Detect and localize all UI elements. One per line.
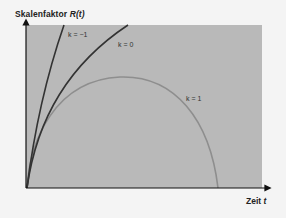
x-axis-label: Zeit t — [246, 196, 266, 206]
scale-factor-chart: k = −1 k = 0 k = 1 Skalenfaktor R(t) Zei… — [0, 0, 286, 218]
label-k-minus1: k = −1 — [68, 31, 88, 38]
y-axis-label: Skalenfaktor R(t) — [15, 9, 85, 19]
plot-area: k = −1 k = 0 k = 1 — [0, 0, 286, 218]
label-k-plus1: k = 1 — [186, 95, 201, 102]
label-k-0: k = 0 — [118, 41, 133, 48]
plot-background — [26, 25, 262, 188]
